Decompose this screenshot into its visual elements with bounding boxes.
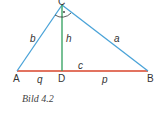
- vertex-label-d: D: [58, 73, 65, 84]
- right-triangle-diagram: C A D B b h a c q p Bild 4.2: [0, 0, 162, 114]
- segment-label-b: b: [30, 33, 36, 44]
- vertex-label-c: C: [58, 0, 65, 7]
- segment-label-c: c: [78, 60, 83, 71]
- segment-label-p: p: [101, 74, 108, 85]
- vertex-label-b: B: [147, 73, 154, 84]
- right-angle-marker: [55, 13, 71, 17]
- segment-label-a: a: [114, 33, 120, 44]
- vertex-label-a: A: [13, 73, 20, 84]
- segment-a: [62, 5, 148, 71]
- right-angle-dot: [63, 11, 65, 13]
- segment-label-h: h: [66, 33, 72, 44]
- figure-caption: Bild 4.2: [22, 93, 54, 104]
- segment-label-q: q: [37, 74, 43, 85]
